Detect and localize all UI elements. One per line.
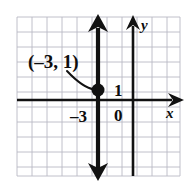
graph-figure: (–3, 1) 1 0 –3 x y [0, 0, 196, 188]
y-axis-label: y [139, 17, 148, 33]
tick-label-negative-three: –3 [69, 107, 87, 126]
x-axis-label: x [165, 105, 174, 121]
tick-label-one: 1 [114, 81, 123, 100]
coordinate-plane-svg: (–3, 1) 1 0 –3 x y [0, 0, 196, 188]
tick-label-zero: 0 [114, 106, 123, 125]
point-coordinate-label: (–3, 1) [28, 51, 79, 73]
